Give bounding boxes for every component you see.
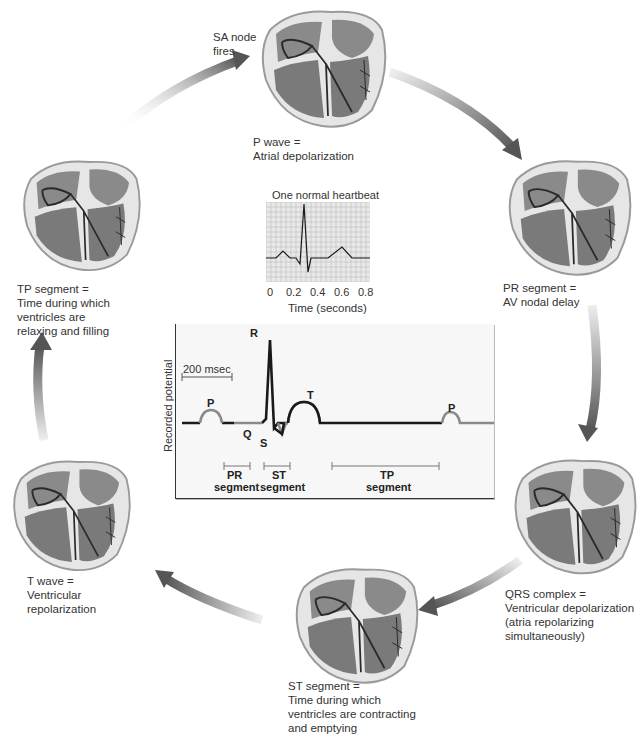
small-ecg-tick-2: 0.4 [310,286,325,298]
heart-st-segment [285,558,425,686]
large-ecg-chart [176,324,494,498]
scale-bar-label: 200 msec [183,363,231,375]
segment-label-pr-word: segment [214,481,259,493]
caption-qrs-complex: QRS complex = Ventricular depolarization… [505,587,634,643]
segment-label-tp-word: segment [366,481,411,493]
arrow-p-to-pr [390,72,522,160]
arrow-tp-to-sa [120,50,250,130]
heart-qrs-complex [505,448,642,578]
arrow-t-to-tp [30,332,52,440]
caption-p-wave: P wave = Atrial depolarization [253,135,354,163]
wave-label-p2: P [448,402,455,414]
heart-t-wave [4,448,136,576]
small-ecg-title: One normal heartbeat [272,189,379,201]
caption-pr-segment: PR segment = AV nodal delay [503,281,580,309]
caption-st-segment: ST segment = Time during which ventricle… [288,679,416,735]
wave-label-q: Q [243,428,252,440]
wave-label-s: S [260,437,267,449]
small-ecg-chart [266,202,370,282]
small-ecg-xlabel: Time (seconds) [288,302,367,314]
small-ecg-tick-0: 0 [267,286,273,298]
wave-label-t: T [307,389,314,401]
caption-sa-node: SA node fires [213,30,256,58]
large-ecg-trace [182,340,442,428]
wave-label-r: R [250,327,258,339]
small-ecg-tick-3: 0.6 [334,286,349,298]
caption-t-wave: T wave = Ventricular repolarization [27,574,96,616]
arrow-st-to-t [155,570,262,620]
small-ecg-tick-1: 0.2 [286,286,301,298]
heart-sa-node [252,0,392,130]
segment-brackets [224,462,439,470]
segment-label-tp: TP [380,469,394,481]
small-ecg-tick-4: 0.8 [358,286,373,298]
large-ecg-ylabel: Recorded potential [162,360,174,452]
arrow-pr-to-qrs [578,305,598,442]
caption-tp-segment: TP segment = Time during which ventricle… [17,282,110,338]
segment-label-st-word: segment [260,481,305,493]
heart-tp-segment [14,148,146,276]
heart-pr-segment [498,150,638,278]
segment-label-pr: PR [227,469,242,481]
wave-label-p1: P [207,397,214,409]
segment-label-st: ST [272,469,286,481]
